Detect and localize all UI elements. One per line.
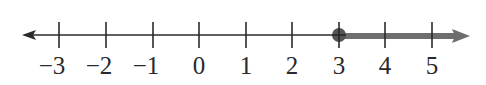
tick-label: 2 <box>286 52 299 79</box>
tick-label: −2 <box>86 52 113 79</box>
tick-label: −1 <box>133 52 160 79</box>
number-line-diagram: −3 −2 −1 0 1 2 3 4 5 <box>0 0 486 85</box>
tick-label: −3 <box>39 52 66 79</box>
tick-label: 1 <box>240 52 253 79</box>
tick-label: 3 <box>333 52 346 79</box>
tick-label: 4 <box>379 52 392 79</box>
tick-label: 0 <box>193 52 206 79</box>
tick-label: 5 <box>426 52 439 79</box>
tick-labels: −3 −2 −1 0 1 2 3 4 5 <box>39 52 439 79</box>
